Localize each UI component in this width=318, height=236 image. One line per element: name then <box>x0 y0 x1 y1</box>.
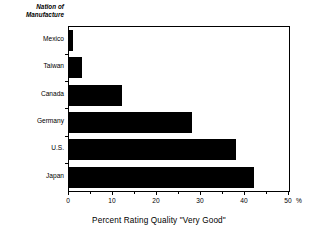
bar-mexico <box>69 30 73 51</box>
x-axis-tick-minor <box>90 191 91 194</box>
bar-taiwan <box>69 57 82 78</box>
bars-area <box>69 27 289 191</box>
category-label: Taiwan <box>0 62 64 70</box>
bar-row <box>69 27 73 54</box>
bar-row <box>69 82 122 109</box>
category-label: Mexico <box>0 35 64 43</box>
y-axis-title-line-1: Nation of <box>2 3 64 11</box>
bar-germany <box>69 112 192 133</box>
category-label: U.S. <box>0 144 64 152</box>
x-axis-tick-minor <box>222 191 223 194</box>
y-axis-tick <box>65 136 69 137</box>
x-axis-tick-major <box>244 191 245 195</box>
x-axis-unit-label: % <box>296 197 302 205</box>
y-axis-tick <box>65 163 69 164</box>
x-axis-tick-major <box>288 191 289 195</box>
category-label: Japan <box>0 172 64 180</box>
bar-row <box>69 136 236 163</box>
y-axis-title: Nation of Manufacture <box>2 3 64 19</box>
x-axis-tick-label: 0 <box>56 197 80 205</box>
y-axis-title-line-2: Manufacture <box>2 11 64 19</box>
category-axis-labels: Mexico Taiwan Canada Germany U.S. Japan <box>0 27 64 191</box>
bar-japan <box>69 167 254 188</box>
x-axis-tick-label: 40 <box>232 197 256 205</box>
x-axis-tick-minor <box>178 191 179 194</box>
bar-us <box>69 139 236 160</box>
x-axis-tick-major <box>156 191 157 195</box>
category-label: Germany <box>0 117 64 125</box>
bar-row <box>69 109 192 136</box>
x-axis-tick-major <box>68 191 69 195</box>
x-axis-tick-minor <box>134 191 135 194</box>
bar-row <box>69 54 82 81</box>
x-axis-tick-major <box>200 191 201 195</box>
x-axis-tick-label: 20 <box>144 197 168 205</box>
x-axis-tick-label: 10 <box>100 197 124 205</box>
y-axis-tick <box>65 54 69 55</box>
y-axis-tick <box>65 81 69 82</box>
category-label: Canada <box>0 90 64 98</box>
x-axis-tick-minor <box>266 191 267 194</box>
y-axis-tick <box>65 108 69 109</box>
x-axis-tick-major <box>112 191 113 195</box>
x-axis-title: Percent Rating Quality "Very Good" <box>0 216 318 226</box>
x-axis-tick-label: 30 <box>188 197 212 205</box>
bar-chart: Nation of Manufacture Mexico Taiwan Cana… <box>0 0 318 236</box>
bar-row <box>69 164 254 191</box>
bar-canada <box>69 85 122 106</box>
